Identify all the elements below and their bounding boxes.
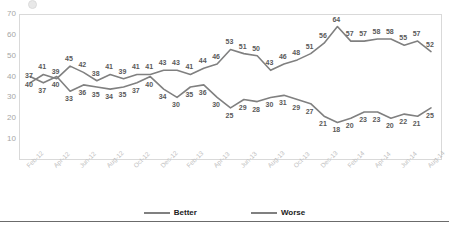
series-line-worse: [30, 27, 431, 83]
data-label-worse: 51: [306, 43, 314, 50]
data-label-better: 21: [413, 120, 421, 127]
data-label-better: 20: [346, 122, 354, 129]
data-label-worse: 43: [266, 59, 274, 66]
legend-label: Better: [174, 209, 197, 217]
data-label-better: 34: [105, 93, 113, 100]
data-label-worse: 42: [78, 61, 86, 68]
data-label-worse: 39: [52, 68, 60, 75]
chart-legend: BetterWorse: [0, 205, 449, 221]
data-label-better: 31: [279, 99, 287, 106]
data-label-worse: 45: [65, 55, 73, 62]
y-axis-tick-label: 60: [0, 31, 16, 39]
data-label-better: 36: [199, 89, 207, 96]
legend-line-swatch: [144, 212, 170, 214]
legend-line-swatch: [251, 212, 277, 214]
data-label-better: 25: [226, 112, 234, 119]
data-label-worse: 41: [185, 63, 193, 70]
data-label-worse: 46: [279, 53, 287, 60]
data-label-better: 20: [386, 122, 394, 129]
data-label-better: 29: [292, 104, 300, 111]
y-axis-tick-label: 20: [0, 114, 16, 122]
y-axis-tick-label: 50: [0, 52, 16, 60]
data-label-worse: 57: [359, 30, 367, 37]
data-label-worse: 41: [105, 63, 113, 70]
data-label-better: 33: [65, 95, 73, 102]
data-label-better: 36: [78, 89, 86, 96]
data-label-worse: 48: [292, 49, 300, 56]
data-label-worse: 53: [226, 38, 234, 45]
data-label-better: 34: [159, 93, 167, 100]
data-label-better: 37: [38, 87, 46, 94]
data-label-worse: 51: [239, 43, 247, 50]
data-label-better: 23: [359, 116, 367, 123]
legend-item-worse[interactable]: Worse: [251, 209, 305, 217]
legend-label: Worse: [281, 209, 305, 217]
data-label-better: 37: [132, 87, 140, 94]
data-label-worse: 64: [332, 16, 340, 23]
data-label-better: 40: [52, 81, 60, 88]
y-axis-tick-label: 70: [0, 10, 16, 18]
y-axis-tick-label: 40: [0, 73, 16, 81]
data-label-worse: 58: [373, 28, 381, 35]
data-label-worse: 41: [145, 63, 153, 70]
data-label-better: 30: [172, 101, 180, 108]
data-label-better: 23: [373, 116, 381, 123]
line-chart-canvas: [0, 0, 449, 233]
chart-container: 70605040302010 Feb-12Apr-12Jun-12Aug-12O…: [0, 0, 449, 233]
data-label-better: 35: [119, 91, 127, 98]
data-label-worse: 57: [413, 30, 421, 37]
data-label-worse: 43: [172, 59, 180, 66]
data-label-worse: 57: [346, 30, 354, 37]
data-label-worse: 39: [119, 68, 127, 75]
footer-rule: [0, 221, 449, 222]
data-label-better: 18: [332, 126, 340, 133]
y-axis-tick-label: 10: [0, 135, 16, 143]
data-label-better: 27: [306, 108, 314, 115]
data-label-better: 40: [25, 81, 33, 88]
data-label-worse: 41: [38, 63, 46, 70]
data-label-worse: 43: [159, 59, 167, 66]
data-label-better: 29: [239, 104, 247, 111]
data-label-worse: 37: [25, 72, 33, 79]
data-label-worse: 55: [399, 34, 407, 41]
data-label-better: 21: [319, 120, 327, 127]
data-label-worse: 50: [252, 45, 260, 52]
data-label-worse: 46: [212, 53, 220, 60]
data-label-better: 35: [92, 91, 100, 98]
legend-item-better[interactable]: Better: [144, 209, 197, 217]
data-label-better: 40: [145, 81, 153, 88]
data-label-better: 22: [399, 118, 407, 125]
data-label-better: 25: [426, 112, 434, 119]
y-axis-tick-label: 30: [0, 93, 16, 101]
data-label-worse: 44: [199, 57, 207, 64]
data-label-worse: 56: [319, 32, 327, 39]
data-label-better: 30: [212, 101, 220, 108]
data-label-worse: 58: [386, 28, 394, 35]
data-label-better: 30: [266, 101, 274, 108]
data-label-better: 28: [252, 106, 260, 113]
data-label-worse: 52: [426, 41, 434, 48]
data-label-worse: 38: [92, 70, 100, 77]
data-label-better: 35: [185, 91, 193, 98]
data-label-worse: 41: [132, 63, 140, 70]
